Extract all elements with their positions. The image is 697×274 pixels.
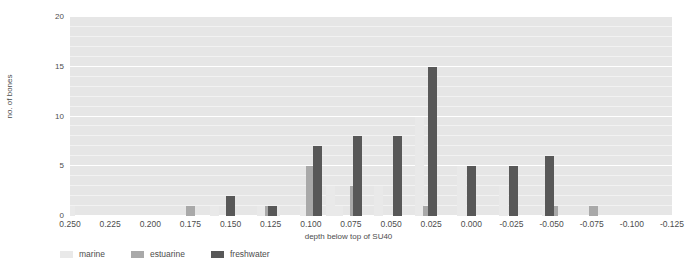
bar-freshwater — [353, 136, 362, 216]
x-tick-label: 0.225 — [90, 219, 130, 229]
bar-series-container — [70, 17, 672, 216]
legend-item-freshwater[interactable]: freshwater — [211, 250, 270, 259]
y-tick-label: 20 — [38, 13, 64, 21]
bar-marine — [499, 186, 508, 216]
bar-freshwater — [313, 146, 322, 216]
bar-freshwater — [509, 166, 518, 216]
legend-item-marine[interactable]: marine — [60, 250, 105, 259]
bar-freshwater — [428, 67, 437, 216]
y-tick-label: 15 — [38, 63, 64, 71]
x-tick-label: 0.075 — [331, 219, 371, 229]
y-axis-title: no. of bones — [5, 52, 14, 142]
legend-label: estuarine — [150, 250, 185, 259]
y-tick-label: 10 — [38, 113, 64, 121]
chart-root: no. of bones 05101520 0.2500.2250.2000.1… — [0, 0, 697, 274]
plot-area — [70, 17, 672, 216]
bar-marine — [415, 117, 424, 217]
legend-swatch-icon — [60, 251, 73, 258]
bar-estuarine — [186, 206, 195, 216]
y-tick-label: 5 — [38, 162, 64, 170]
legend-item-estuarine[interactable]: estuarine — [131, 250, 185, 259]
legend-swatch-icon — [131, 251, 144, 258]
bar-freshwater — [226, 196, 235, 216]
x-tick-label: -0.125 — [652, 219, 692, 229]
legend-label: freshwater — [230, 250, 270, 259]
x-tick-label: -0.025 — [491, 219, 531, 229]
x-tick-label: 0.125 — [251, 219, 291, 229]
bar-marine — [374, 186, 383, 216]
x-tick-label: -0.100 — [612, 219, 652, 229]
bar-estuarine — [589, 206, 598, 216]
x-tick-label: 0.000 — [451, 219, 491, 229]
x-tick-label: -0.050 — [532, 219, 572, 229]
bar-marine — [210, 206, 219, 216]
bar-freshwater — [467, 166, 476, 216]
x-tick-label: 0.100 — [291, 219, 331, 229]
chart-legend: marineestuarinefreshwater — [60, 250, 270, 259]
x-tick-label: 0.175 — [170, 219, 210, 229]
bar-freshwater — [268, 206, 277, 216]
x-tick-label: 0.050 — [371, 219, 411, 229]
legend-swatch-icon — [211, 251, 224, 258]
legend-label: marine — [79, 250, 105, 259]
bar-marine — [70, 206, 75, 216]
x-tick-label: -0.075 — [572, 219, 612, 229]
bar-freshwater — [545, 156, 554, 216]
bar-freshwater — [393, 136, 402, 216]
x-axis-title: depth below top of SU40 — [0, 232, 697, 241]
bar-marine — [334, 206, 343, 216]
x-tick-label: 0.200 — [130, 219, 170, 229]
x-tick-label: 0.250 — [50, 219, 90, 229]
x-tick-label: 0.025 — [411, 219, 451, 229]
x-tick-label: 0.150 — [211, 219, 251, 229]
